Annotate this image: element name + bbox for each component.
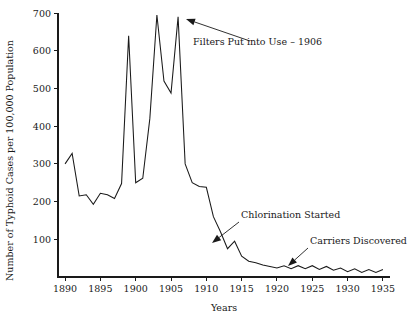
y-tick-label: 600 (33, 45, 51, 56)
y-tick-label: 500 (33, 83, 51, 94)
typhoid-cases-chart: 100200300400500600700 189018951900190519… (0, 0, 413, 317)
x-axis-tick-labels: 1890189519001905191019151920192519301935 (53, 283, 395, 294)
y-tick-label: 200 (33, 196, 51, 207)
x-axis-title: Years (210, 302, 237, 313)
y-axis-tick-labels: 100200300400500600700 (33, 8, 51, 245)
annotation-label: Chlorination Started (241, 209, 340, 220)
annotation-arrow-head (186, 19, 196, 25)
y-tick-label: 300 (33, 158, 51, 169)
x-tick-label: 1900 (124, 283, 148, 294)
carriers-annotation: Carriers Discovered (288, 235, 407, 266)
filters-annotation: Filters Put into Use – 1906 (186, 19, 322, 47)
x-tick-label: 1895 (88, 283, 112, 294)
annotation-arrow-head (212, 235, 221, 243)
x-tick-label: 1910 (194, 283, 218, 294)
annotation-arrow-shaft (295, 248, 308, 260)
annotation-arrow-shaft (219, 222, 239, 237)
y-tick-label: 100 (33, 234, 51, 245)
x-tick-label: 1925 (300, 283, 324, 294)
x-tick-label: 1930 (336, 283, 360, 294)
y-axis-title: Number of Typhoid Cases per 100,000 Popu… (4, 40, 15, 281)
x-tick-label: 1915 (230, 283, 254, 294)
y-tick-label: 400 (33, 121, 51, 132)
x-tick-label: 1920 (265, 283, 289, 294)
x-tick-label: 1890 (53, 283, 77, 294)
x-tick-label: 1905 (159, 283, 183, 294)
y-tick-label: 700 (33, 8, 51, 19)
chart-canvas: 100200300400500600700 189018951900190519… (0, 0, 413, 317)
annotation-label: Filters Put into Use – 1906 (193, 36, 322, 47)
x-tick-label: 1935 (371, 283, 395, 294)
annotation-label: Carriers Discovered (310, 235, 407, 246)
